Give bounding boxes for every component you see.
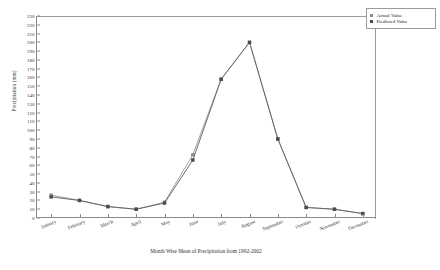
data-point-marker [304, 206, 307, 209]
x-axis-tick-label: November [319, 219, 341, 232]
y-axis-tick-label: 40 [30, 180, 38, 185]
chart-legend: Actual Value Predicted Value [366, 8, 436, 29]
y-axis-tick-label: 170 [27, 66, 37, 71]
y-axis-tick-mark [37, 147, 40, 148]
y-axis-tick-label: 140 [27, 93, 37, 98]
y-axis-tick-mark [37, 218, 40, 219]
data-point-marker [106, 205, 109, 208]
y-axis-tick-label: 120 [27, 110, 37, 115]
x-axis-tick-mark [136, 214, 137, 217]
series-line [51, 42, 363, 213]
series-layer [37, 16, 377, 218]
y-axis-tick-mark [37, 112, 40, 113]
y-axis-tick-mark [37, 103, 40, 104]
y-axis-tick-label: 190 [27, 49, 37, 54]
data-point-marker [276, 137, 279, 140]
y-axis-tick-mark [37, 121, 40, 122]
x-axis-tick-label: May [160, 219, 171, 227]
y-axis-tick-mark [37, 174, 40, 175]
y-axis-tick-mark [37, 191, 40, 192]
y-axis-tick-mark [37, 86, 40, 87]
y-axis-tick-mark [37, 59, 40, 60]
x-axis-tick-mark [193, 214, 194, 217]
y-axis-tick-label: 30 [30, 189, 38, 194]
series-line [51, 42, 363, 213]
plot-area: 0102030405060708090100110120130140150160… [36, 16, 376, 218]
legend-marker-actual [370, 14, 373, 17]
x-axis-tick-label: June [188, 219, 199, 227]
x-axis-tick-mark [51, 214, 52, 217]
y-axis-tick-mark [37, 33, 40, 34]
x-axis-tick-label: December [347, 219, 368, 232]
y-axis-tick-label: 70 [30, 154, 38, 159]
x-axis-tick-label: October [295, 219, 312, 230]
y-axis-tick-label: 20 [30, 198, 38, 203]
y-axis-tick-mark [37, 68, 40, 69]
y-axis-tick-mark [37, 77, 40, 78]
y-axis-tick-label: 160 [27, 75, 37, 80]
x-axis-tick-mark [80, 214, 81, 217]
x-axis-title: Month Wise Mean of Precipitation from 19… [36, 248, 376, 254]
data-point-marker [163, 201, 166, 204]
data-point-marker [134, 208, 137, 211]
y-axis-tick-mark [37, 16, 40, 17]
x-axis-tick-label: February [66, 219, 85, 231]
x-axis-tick-mark [221, 214, 222, 217]
x-axis-tick-label: March [99, 219, 113, 229]
y-axis-tick-mark [37, 209, 40, 210]
data-point-marker [219, 78, 222, 81]
x-axis-tick-mark [250, 214, 251, 217]
legend-item-predicted: Predicted Value [370, 19, 432, 24]
x-axis-tick-mark [278, 214, 279, 217]
x-axis-tick-label: September [262, 219, 284, 232]
y-axis-tick-label: 60 [30, 163, 38, 168]
y-axis-tick-label: 220 [27, 22, 37, 27]
y-axis-tick-mark [37, 182, 40, 183]
legend-item-actual: Actual Value [370, 13, 432, 18]
y-axis-tick-label: 130 [27, 101, 37, 106]
y-axis-tick-mark [37, 138, 40, 139]
y-axis-tick-label: 200 [27, 40, 37, 45]
y-axis-tick-mark [37, 24, 40, 25]
y-axis-tick-mark [37, 42, 40, 43]
y-axis-tick-label: 110 [27, 119, 37, 124]
x-axis-tick-label: April [130, 219, 142, 228]
x-axis-tick-label: August [240, 219, 256, 229]
y-axis-title: Precipitation (mm) [11, 43, 17, 139]
y-axis-tick-label: 230 [27, 14, 37, 19]
legend-label-actual: Actual Value [376, 13, 402, 18]
y-axis-tick-mark [37, 130, 40, 131]
x-axis-tick-label: July [217, 219, 227, 227]
x-axis-tick-mark [335, 214, 336, 217]
y-axis-tick-label: 210 [27, 31, 37, 36]
data-point-marker [78, 199, 81, 202]
y-axis-tick-mark [37, 200, 40, 201]
legend-label-predicted: Predicted Value [376, 19, 407, 24]
y-axis-tick-label: 100 [27, 128, 37, 133]
y-axis-tick-mark [37, 95, 40, 96]
y-axis-tick-label: 150 [27, 84, 37, 89]
y-axis-tick-label: 180 [27, 57, 37, 62]
x-axis-tick-mark [108, 214, 109, 217]
x-axis-tick-label: January [40, 219, 57, 230]
y-axis-tick-mark [37, 156, 40, 157]
x-axis-tick-mark [363, 214, 364, 217]
data-point-marker [333, 208, 336, 211]
data-point-marker [191, 158, 194, 161]
data-point-marker [49, 195, 52, 198]
data-point-marker [248, 41, 251, 44]
x-axis-tick-mark [306, 214, 307, 217]
legend-marker-predicted [370, 20, 373, 23]
y-axis-tick-label: 10 [30, 207, 38, 212]
y-axis-tick-label: 50 [30, 172, 38, 177]
y-axis-tick-mark [37, 51, 40, 52]
chart-figure: Precipitation (mm) 010203040506070809010… [0, 0, 440, 270]
y-axis-tick-label: 90 [30, 136, 38, 141]
y-axis-tick-mark [37, 165, 40, 166]
x-axis-tick-mark [165, 214, 166, 217]
y-axis-tick-label: 80 [30, 145, 38, 150]
